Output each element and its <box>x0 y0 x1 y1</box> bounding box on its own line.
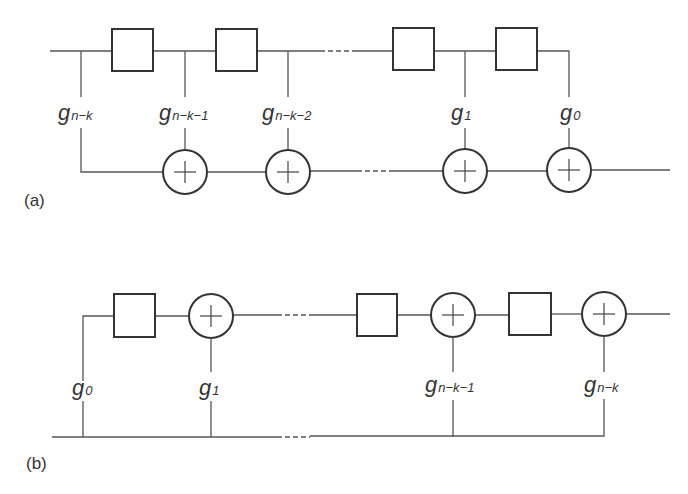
adder-icon <box>163 150 207 194</box>
panel-b: g0 g1 gn−k−1 gn−k (b) <box>26 292 670 473</box>
adder-icon <box>431 293 475 337</box>
register-box <box>496 28 537 70</box>
panel-a: gn−k gn−k−1 gn−k−2 g1 g0 (a) <box>24 28 670 210</box>
coefficient-label: gn−k−1 <box>159 100 208 125</box>
register-box <box>216 29 257 71</box>
register-box <box>509 293 551 335</box>
adder-icon <box>266 150 310 194</box>
coefficient-label: g1 <box>451 100 471 125</box>
adder-icon <box>189 294 233 338</box>
coefficient-label: g0 <box>72 375 93 400</box>
register-box <box>357 294 397 336</box>
tap-line <box>81 128 163 172</box>
coefficient-label: g0 <box>560 100 581 125</box>
coefficient-label: gn−k−1 <box>425 372 474 397</box>
tap-line <box>310 399 604 436</box>
coefficient-label: gn−k−2 <box>262 100 312 125</box>
wire <box>83 316 114 381</box>
adder-icon <box>443 149 487 193</box>
wire <box>537 51 569 97</box>
register-box <box>114 294 155 337</box>
encoder-diagram: gn−k gn−k−1 gn−k−2 g1 g0 (a) <box>0 0 688 494</box>
register-box <box>112 29 153 71</box>
coefficient-label: gn−k <box>58 100 94 125</box>
adder-icon <box>547 148 591 192</box>
panel-label-a: (a) <box>24 191 45 210</box>
adder-icon <box>582 292 626 336</box>
panel-label-b: (b) <box>26 454 47 473</box>
coefficient-label: g1 <box>199 375 219 400</box>
register-box <box>393 28 434 70</box>
coefficient-label: gn−k <box>584 372 620 397</box>
